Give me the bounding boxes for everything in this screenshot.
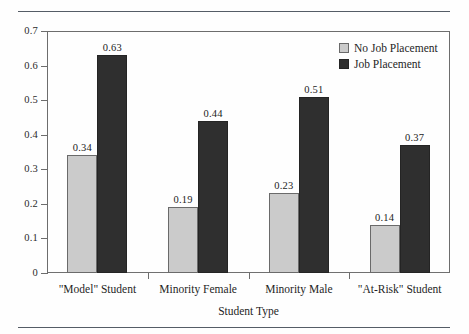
y-axis-tick-label: 0: [8, 268, 38, 278]
x-axis-tick: [249, 273, 250, 279]
y-axis-tick: [41, 31, 48, 32]
y-axis-tick-label: 0.7: [8, 26, 38, 36]
bar-value-label: 0.37: [392, 132, 438, 143]
y-axis-tick: [41, 100, 48, 101]
y-axis-tick-label: 0.5: [8, 95, 38, 105]
y-axis-tick-label: 0.1: [8, 233, 38, 243]
y-axis-tick: [41, 238, 48, 239]
legend-swatch-icon-job-placement: [339, 59, 349, 69]
x-axis-tick: [148, 273, 149, 279]
legend-item-job-placement[interactable]: Job Placement: [339, 57, 438, 71]
y-axis-tick-label: 0.4: [8, 130, 38, 140]
bar-job-placement[interactable]: [97, 55, 127, 273]
y-axis-tick-label: 0.2: [8, 199, 38, 209]
bar-job-placement[interactable]: [198, 121, 228, 273]
x-axis-category-label: "At-Risk" Student: [349, 283, 450, 296]
bar-no-job-placement[interactable]: [168, 207, 198, 273]
legend-label-no-job-placement: No Job Placement: [354, 42, 438, 54]
x-axis-category-label: "Model" Student: [47, 283, 148, 296]
y-axis-tick: [41, 135, 48, 136]
legend-swatch-icon-no-job-placement: [339, 43, 349, 53]
y-axis-tick: [41, 169, 48, 170]
legend-label-job-placement: Job Placement: [354, 58, 421, 70]
y-axis-tick: [41, 273, 48, 274]
bar-job-placement[interactable]: [400, 145, 430, 273]
bar-no-job-placement[interactable]: [269, 193, 299, 273]
legend-item-no-job-placement[interactable]: No Job Placement: [339, 41, 438, 55]
x-axis-title: Student Type: [47, 305, 450, 318]
bar-job-placement[interactable]: [299, 97, 329, 273]
y-axis-tick-label: 0.6: [8, 61, 38, 71]
bar-value-label: 0.51: [291, 84, 337, 95]
figure-container: 00.10.20.30.40.50.60.7 0.340.630.190.440…: [0, 0, 469, 334]
chart-legend: No Job Placement Job Placement: [339, 41, 438, 73]
x-axis-category-label: Minority Male: [249, 283, 350, 296]
y-axis-tick-label: 0.3: [8, 164, 38, 174]
x-axis-tick: [349, 273, 350, 279]
top-horizontal-rule: [18, 11, 450, 12]
bar-no-job-placement[interactable]: [370, 225, 400, 273]
x-axis-category-label: Minority Female: [148, 283, 249, 296]
y-axis-tick: [41, 66, 48, 67]
bottom-horizontal-rule: [18, 327, 450, 328]
bar-value-label: 0.44: [190, 108, 236, 119]
y-axis-tick: [41, 204, 48, 205]
bar-value-label: 0.63: [89, 42, 135, 53]
bar-no-job-placement[interactable]: [67, 155, 97, 273]
